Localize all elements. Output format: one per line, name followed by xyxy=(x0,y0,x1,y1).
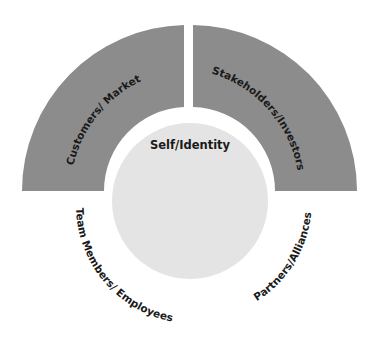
center-label: Self/Identity xyxy=(150,138,231,152)
stakeholder-ring-diagram: Self/Identity Customers/ Market Stakehol… xyxy=(0,0,377,347)
